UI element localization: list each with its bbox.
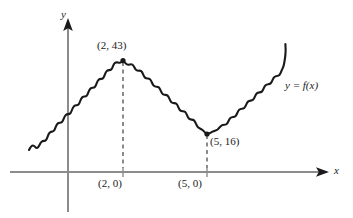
label-x-intercept-2: (2, 0) [98,178,122,189]
function-graph-figure: (2, 43) (5, 16) (2, 0) (5, 0) y x y = f(… [0,0,353,218]
plot-canvas [0,0,353,218]
label-local-minimum: (5, 16) [210,136,239,147]
y-axis-label: y [61,9,66,20]
label-local-maximum: (2, 43) [97,40,126,51]
x-axis-label: x [334,165,339,176]
curve-equation-label: y = f(x) [285,80,318,91]
marker-local-maximum [120,58,125,63]
label-x-intercept-5: (5, 0) [178,178,202,189]
marker-local-minimum [204,131,209,136]
